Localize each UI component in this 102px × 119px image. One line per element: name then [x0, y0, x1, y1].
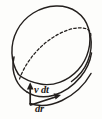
left-side-wall	[13, 57, 27, 92]
disc-diagram-svg: v dt dr	[0, 0, 102, 119]
dr-label: dr	[35, 103, 45, 114]
dr-vector-arrowhead	[54, 93, 61, 99]
v-dt-label: v dt	[34, 84, 50, 95]
right-side-wall	[72, 36, 92, 82]
bottom-ellipse-hidden-rim	[20, 28, 91, 79]
v-dt-vector-arrowhead	[27, 82, 34, 89]
bottom-ellipse-front-rim	[27, 53, 92, 105]
figure-container: v dt dr	[0, 0, 102, 119]
v-dt-label-text: v dt	[34, 84, 50, 95]
dr-label-text: dr	[35, 103, 45, 114]
top-ellipse-rim	[12, 6, 90, 85]
